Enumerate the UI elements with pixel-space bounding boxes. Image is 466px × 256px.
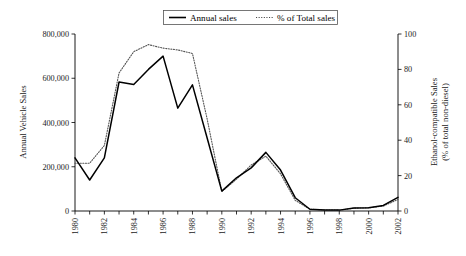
- x-axis-tick-label: 1982: [100, 218, 109, 234]
- x-axis-tick-label: 1988: [188, 218, 197, 234]
- x-axis-tick-label: 1998: [335, 218, 344, 234]
- x-axis-tick-label: 1990: [218, 218, 227, 234]
- x-axis-tick-label: 1996: [306, 218, 315, 234]
- x-axis-tick-label: 2002: [394, 218, 403, 234]
- y-axis-right-tick-label: 20: [404, 172, 412, 181]
- y-axis-left-tick-label: 800,000: [42, 30, 69, 39]
- x-axis-tick-label: 1980: [71, 218, 80, 234]
- x-axis-tick-label: 1984: [130, 218, 139, 234]
- x-axis-ticks: [75, 211, 398, 215]
- y-axis-left-ticks: [72, 34, 76, 211]
- y-axis-right-ticks: [398, 34, 402, 211]
- y-axis-left-tick-label: 0: [65, 207, 69, 216]
- chart-page: 0200,000400,000600,000800,000 0204060801…: [0, 0, 466, 256]
- annual-vehicle-sales-chart: 0200,000400,000600,000800,000 0204060801…: [0, 0, 466, 256]
- legend-label-percent-of-total-sales: % of Total sales: [277, 13, 335, 23]
- y-axis-right-tick-label: 0: [404, 207, 408, 216]
- y-axis-left-tick-label: 600,000: [42, 74, 69, 83]
- x-axis-tick-label: 1986: [159, 218, 168, 234]
- y-axis-left-tick-label: 400,000: [42, 119, 69, 128]
- y-axis-left-tick-labels: 0200,000400,000600,000800,000: [42, 30, 69, 216]
- legend: Annual sales % of Total sales: [164, 11, 338, 25]
- y-axis-right-title-line2: (% of total non-diesel): [440, 83, 450, 161]
- y-axis-left-tick-label: 200,000: [42, 163, 69, 172]
- y-axis-right-tick-label: 80: [404, 65, 412, 74]
- x-axis-tick-label: 2000: [365, 218, 374, 234]
- legend-label-annual-sales: Annual sales: [190, 13, 237, 23]
- y-axis-right-tick-labels: 020406080100: [404, 30, 416, 216]
- y-axis-left-title: Annual Vehicle Sales: [18, 85, 28, 159]
- x-axis-tick-label: 1992: [247, 218, 256, 234]
- y-axis-right-tick-label: 100: [404, 30, 416, 39]
- y-axis-right-title-line1: Ethanol-compatible Sales: [429, 77, 439, 166]
- y-axis-right-tick-label: 40: [404, 136, 412, 145]
- series-line-percent-of-total-sales: [75, 45, 398, 211]
- x-axis-tick-labels: 1980198219841986198819901992199419961998…: [71, 218, 403, 234]
- y-axis-right-tick-label: 60: [404, 101, 412, 110]
- series-line-annual-sales: [75, 56, 398, 210]
- x-axis-tick-label: 1994: [277, 218, 286, 234]
